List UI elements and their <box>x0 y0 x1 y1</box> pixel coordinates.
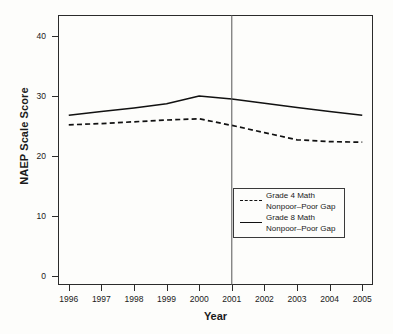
legend-box: Grade 4 Math Nonpoor–Poor Gap Grade 8 Ma… <box>233 188 345 238</box>
y-axis-title: NAEP Scale Score <box>18 66 30 206</box>
y-tick-label: 40 <box>16 31 46 41</box>
x-tick-mark <box>69 285 70 291</box>
x-tick-mark <box>134 285 135 291</box>
legend-label-grade-4-line2: Nonpoor–Poor Gap <box>266 202 335 211</box>
legend-label-grade-4: Grade 4 Math Nonpoor–Poor Gap <box>266 191 335 212</box>
x-tick-mark <box>101 285 102 291</box>
series-line-grade-8 <box>69 96 362 115</box>
naep-scale-score-chart: NAEP Scale Score Year 010203040199619971… <box>0 0 393 334</box>
y-tick-label: 10 <box>16 211 46 221</box>
legend-entry-grade-8: Grade 8 Math Nonpoor–Poor Gap <box>234 213 346 235</box>
plot-area <box>58 15 373 285</box>
x-tick-mark <box>297 285 298 291</box>
y-tick-label: 30 <box>16 91 46 101</box>
x-tick-mark <box>199 285 200 291</box>
legend-key-solid-icon <box>240 222 262 225</box>
x-tick-label: 2005 <box>342 294 382 304</box>
legend-label-grade-4-line1: Grade 4 Math <box>266 191 315 200</box>
x-tick-mark <box>264 285 265 291</box>
legend-label-grade-8-line1: Grade 8 Math <box>266 213 315 222</box>
y-tick-label: 0 <box>16 271 46 281</box>
legend-label-grade-8: Grade 8 Math Nonpoor–Poor Gap <box>266 213 335 234</box>
x-tick-mark <box>362 285 363 291</box>
series-line-grade-4 <box>69 119 362 142</box>
y-tick-label: 20 <box>16 151 46 161</box>
x-axis-title: Year <box>58 310 373 322</box>
legend-key-dashed-icon <box>240 200 262 203</box>
x-tick-mark <box>167 285 168 291</box>
legend-label-grade-8-line2: Nonpoor–Poor Gap <box>266 224 335 233</box>
x-tick-mark <box>232 285 233 291</box>
legend-entry-grade-4: Grade 4 Math Nonpoor–Poor Gap <box>234 191 346 213</box>
x-tick-mark <box>330 285 331 291</box>
